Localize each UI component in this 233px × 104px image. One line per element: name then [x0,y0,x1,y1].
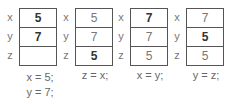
variable-cell: 5 [130,46,168,66]
variable-label: y [172,27,182,46]
variable-label: z [172,46,182,65]
variable-cell: 5 [19,8,57,27]
statement-line: x = 5; [23,71,57,83]
variable-label: z [61,46,71,65]
variable-label: y [61,27,71,46]
statement-line: x = y; [133,69,167,81]
statement-line: z = x; [78,69,112,81]
variable-label: z [5,46,15,65]
variable-cell: 7 [186,8,224,27]
variable-label: x [5,8,15,27]
statement-caption: z = x; [78,69,112,81]
variable-label: x [116,8,126,27]
statement-caption: x = y; [133,69,167,81]
variable-cell: 5 [186,46,224,66]
variable-label: y [116,27,126,46]
statement-caption: x = 5; y = 7; [23,71,57,98]
variable-cell: 7 [75,27,113,46]
variable-label: y [5,27,15,46]
variable-cell: 5 [75,8,113,27]
variable-cell: 5 [75,46,113,66]
variable-cell: 7 [19,27,57,46]
statement-caption: y = z; [189,69,223,81]
statement-line: y = 7; [23,86,57,98]
variable-cell: 7 [130,27,168,46]
variable-cell [19,46,57,66]
statement-line: y = z; [189,69,223,81]
variable-label: z [116,46,126,65]
variable-label: x [172,8,182,27]
variable-cell: 5 [186,27,224,46]
variable-label: x [61,8,71,27]
variable-cell: 7 [130,8,168,27]
